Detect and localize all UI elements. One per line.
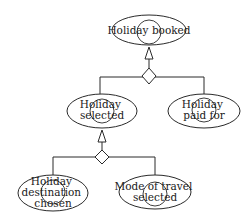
goal-diagram: Holiday booked Holiday selected Holiday …: [0, 0, 250, 220]
arrow-triangle-icon: [145, 47, 153, 59]
and-diamond-icon: [142, 68, 156, 84]
goal-node-mode-of-travel-selected[interactable]: Mode of travel selected: [114, 175, 195, 209]
goal-label: Holiday booked: [107, 24, 190, 36]
arrow-triangle-icon: [98, 130, 106, 142]
goal-node-holiday-paid-for[interactable]: Holiday paid for: [168, 94, 240, 128]
goal-label: Holiday paid for: [182, 98, 226, 121]
goal-node-holiday-booked[interactable]: Holiday booked: [107, 15, 190, 45]
goal-label: Holiday selected: [80, 98, 125, 121]
goal-node-holiday-destination-chosen[interactable]: Holiday destination chosen: [18, 175, 88, 211]
refinement-top: [100, 47, 204, 94]
refinement-lower: [53, 130, 155, 175]
and-diamond-icon: [95, 150, 109, 164]
goal-node-holiday-selected[interactable]: Holiday selected: [67, 94, 137, 128]
